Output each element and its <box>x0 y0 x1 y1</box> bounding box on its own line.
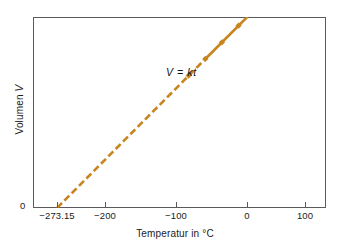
equation-annotation: V = kt <box>166 66 197 78</box>
x-axis-tick-label: −200 <box>94 210 116 221</box>
x-axis-tick-label: 0 <box>244 210 249 221</box>
y-axis-title: Volumen V <box>14 60 25 160</box>
plot-area <box>33 17 326 208</box>
x-axis-tick-label: −100 <box>165 210 187 221</box>
x-axis-tick-label: −273.15 <box>39 210 74 221</box>
x-axis-tick <box>247 202 248 208</box>
x-axis-tick <box>176 202 177 208</box>
volume-temperature-series <box>33 17 326 208</box>
x-axis-tick-label: 100 <box>297 210 313 221</box>
x-axis-tick <box>305 202 306 208</box>
y-axis-origin-label: 0 <box>20 200 25 211</box>
x-axis-tick <box>57 202 58 208</box>
x-axis-title: Temperatur in °C <box>0 228 350 239</box>
chart-figure: −273.15−200−1000100 Temperatur in °C Vol… <box>0 0 350 251</box>
x-axis-tick <box>105 202 106 208</box>
y-axis-title-text: Volumen V <box>14 85 25 135</box>
